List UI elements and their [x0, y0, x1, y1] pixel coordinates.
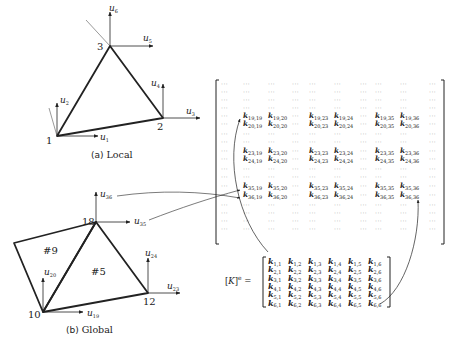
matrix-ellipsis: ···: [268, 96, 275, 103]
matrix-ellipsis: ···: [221, 120, 228, 127]
matrix-ellipsis: ···: [360, 173, 367, 180]
dof-label-u6: u6: [109, 3, 118, 14]
matrix-ellipsis: ···: [292, 112, 299, 119]
node-label-10: 10: [28, 309, 41, 320]
matrix-ellipsis: ···: [400, 96, 407, 103]
matrix-ellipsis: ···: [243, 217, 250, 224]
matrix-ellipsis: ···: [243, 225, 250, 232]
matrix-ellipsis: ···: [221, 209, 228, 216]
dof-label-u1: u1: [100, 132, 109, 143]
matrix-ellipsis: ···: [400, 104, 407, 111]
matrix-ellipsis: ···: [400, 138, 407, 145]
matrix-ellipsis: ···: [243, 80, 250, 87]
matrix-ellipsis: ···: [292, 147, 299, 154]
dof-label-u5: u5: [143, 33, 152, 44]
dof-label-u3: u3: [186, 106, 195, 117]
dof-label-u20: u20: [44, 267, 56, 278]
matrix-ellipsis: ···: [375, 225, 382, 232]
matrix-ellipsis: ···: [243, 130, 250, 137]
matrix-ellipsis: ···: [309, 130, 316, 137]
matrix-ellipsis: ···: [360, 104, 367, 111]
matrix-ellipsis: ···: [429, 104, 436, 111]
matrix-right-bracket: [441, 80, 444, 244]
matrix-ellipsis: ···: [429, 155, 436, 162]
matrix-ellipsis: ···: [360, 147, 367, 154]
matrix-ellipsis: ···: [360, 88, 367, 95]
matrix-ellipsis: ···: [268, 173, 275, 180]
element-9: [14, 222, 96, 312]
matrix-ellipsis: ···: [292, 130, 299, 137]
matrix-ellipsis: ···: [360, 112, 367, 119]
element-label-5: #5: [91, 266, 106, 277]
matrix-ellipsis: ···: [268, 165, 275, 172]
matrix-ellipsis: ···: [309, 165, 316, 172]
matrix-ellipsis: ···: [221, 182, 228, 189]
dof-label-u36: u36: [100, 189, 112, 200]
matrix-ellipsis: ···: [429, 147, 436, 154]
local-triangle: [57, 46, 163, 136]
matrix-ellipsis: ···: [292, 201, 299, 208]
matrix-ellipsis: ···: [292, 80, 299, 87]
fem-assembly-diagram: 1 2 3 u1 u2 u3 u4 u5 u6 (a)Local 10 12 1…: [0, 0, 450, 345]
matrix-ellipsis: ···: [334, 201, 341, 208]
matrix-ellipsis: ···: [429, 191, 436, 198]
matrix-ellipsis: ···: [268, 138, 275, 145]
matrix-ellipsis: ···: [375, 138, 382, 145]
matrix-ellipsis: ···: [429, 165, 436, 172]
dof-label-u24: u24: [145, 248, 157, 259]
matrix-ellipsis: ···: [429, 173, 436, 180]
matrix-entry: k36,20: [268, 190, 287, 200]
node-label-12: 12: [143, 296, 156, 307]
matrix-ellipsis: ···: [268, 225, 275, 232]
element-matrix-cells: k1,1k1,2k1,3k1,4k1,5k1,6k2,1k2,2k2,3k2,4…: [268, 256, 382, 308]
matrix-ellipsis: ···: [309, 80, 316, 87]
matrix-ellipsis: ···: [292, 104, 299, 111]
global-mesh-figure: 10 12 18 #9 #5 u19 u20 u23 u24 u35 u36 (…: [14, 189, 180, 335]
matrix-ellipsis: ···: [309, 201, 316, 208]
matrix-ellipsis: ···: [334, 96, 341, 103]
matrix-ellipsis: ···: [334, 225, 341, 232]
caption-global: (b)Global: [66, 324, 113, 335]
element-stiffness-matrix: [K]e = k1,1k1,2k1,3k1,4k1,5k1,6k2,1k2,2k…: [225, 256, 390, 308]
matrix-ellipsis: ···: [360, 165, 367, 172]
matrix-ellipsis: ···: [268, 88, 275, 95]
matrix-ellipsis: ···: [360, 80, 367, 87]
matrix-ellipsis: ···: [221, 155, 228, 162]
matrix-cells: ········································…: [221, 80, 436, 232]
matrix-ellipsis: ···: [400, 165, 407, 172]
matrix-ellipsis: ···: [309, 173, 316, 180]
matrix-ellipsis: ···: [221, 130, 228, 137]
matrix-ellipsis: ···: [221, 138, 228, 145]
matrix-ellipsis: ···: [429, 138, 436, 145]
matrix-ellipsis: ···: [334, 217, 341, 224]
matrix-ellipsis: ···: [375, 201, 382, 208]
matrix-entry: k36,19: [243, 190, 262, 200]
matrix-ellipsis: ···: [360, 209, 367, 216]
matrix-ellipsis: ···: [292, 88, 299, 95]
matrix-ellipsis: ···: [429, 225, 436, 232]
matrix-ellipsis: ···: [268, 201, 275, 208]
matrix-ellipsis: ···: [292, 209, 299, 216]
matrix-ellipsis: ···: [221, 104, 228, 111]
matrix-ellipsis: ···: [268, 104, 275, 111]
matrix-ellipsis: ···: [334, 104, 341, 111]
matrix-ellipsis: ···: [292, 225, 299, 232]
matrix-ellipsis: ···: [334, 138, 341, 145]
matrix-ellipsis: ···: [309, 88, 316, 95]
matrix-ellipsis: ···: [429, 120, 436, 127]
caption-local: (a)Local: [91, 149, 133, 160]
dof-label-u2: u2: [60, 95, 69, 106]
matrix-ellipsis: ···: [360, 155, 367, 162]
matrix-ellipsis: ···: [400, 201, 407, 208]
matrix-ellipsis: ···: [221, 147, 228, 154]
matrix-ellipsis: ···: [360, 201, 367, 208]
matrix-ellipsis: ···: [292, 182, 299, 189]
matrix-ellipsis: ···: [334, 80, 341, 87]
matrix-ellipsis: ···: [429, 217, 436, 224]
matrix-ellipsis: ···: [309, 217, 316, 224]
node-label-3: 3: [97, 41, 103, 52]
node-label-1: 1: [46, 135, 52, 146]
matrix-ellipsis: ···: [268, 217, 275, 224]
element-label-9: #9: [43, 245, 58, 256]
local-element-figure: 1 2 3 u1 u2 u3 u4 u5 u6 (a)Local: [46, 3, 200, 160]
